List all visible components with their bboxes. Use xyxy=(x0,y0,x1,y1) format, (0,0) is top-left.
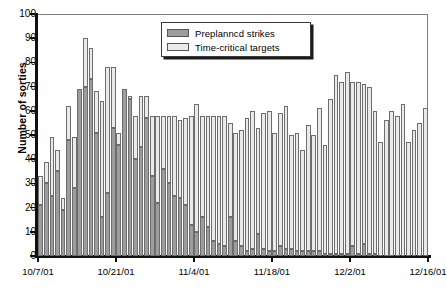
bar-column xyxy=(345,72,350,256)
bar-segment-preplanned-strikes xyxy=(278,246,283,256)
bar-segment-preplanned-strikes xyxy=(183,205,188,256)
bar-segment-time-critical-targets xyxy=(222,116,227,247)
bar-segment-time-critical-targets xyxy=(217,116,222,244)
bar-segment-time-critical-targets xyxy=(38,176,43,205)
x-tick xyxy=(427,256,429,262)
bar-column xyxy=(284,106,289,256)
y-axis: 0102030405060708090100 xyxy=(0,0,36,301)
bar-column xyxy=(44,162,49,256)
bar-segment-preplanned-strikes xyxy=(261,249,266,256)
bar-segment-time-critical-targets xyxy=(228,123,233,217)
bar-segment-preplanned-strikes xyxy=(311,251,316,256)
bar-column xyxy=(267,111,272,256)
bar-segment-time-critical-targets xyxy=(144,96,149,118)
bar-segment-time-critical-targets xyxy=(423,108,428,256)
bar-segment-preplanned-strikes xyxy=(61,210,66,256)
bar-column xyxy=(144,96,149,256)
bar-segment-time-critical-targets xyxy=(261,113,266,249)
bar-segment-preplanned-strikes xyxy=(245,251,250,256)
bar-segment-time-critical-targets xyxy=(317,108,322,251)
bar-segment-time-critical-targets xyxy=(211,116,216,242)
bar-segment-preplanned-strikes xyxy=(300,251,305,256)
bar-column xyxy=(161,116,166,256)
bar-segment-preplanned-strikes xyxy=(50,196,55,257)
bar-segment-time-critical-targets xyxy=(334,75,339,254)
x-tick-label: 10/7/01 xyxy=(22,266,54,277)
legend-item-preplanned-strikes: Preplannсd strikes xyxy=(167,26,305,40)
bar-column xyxy=(211,116,216,256)
bar-column xyxy=(339,82,344,256)
bar-column xyxy=(311,135,316,256)
bar-segment-time-critical-targets xyxy=(256,128,261,234)
bar-segment-time-critical-targets xyxy=(417,123,422,256)
bar-segment-time-critical-targets xyxy=(401,104,406,256)
bar-column xyxy=(122,89,127,256)
bar-segment-preplanned-strikes xyxy=(334,254,339,256)
bar-segment-preplanned-strikes xyxy=(189,225,194,256)
bar-column xyxy=(362,84,367,256)
y-tick-label: 20 xyxy=(8,203,36,213)
bar-column xyxy=(139,96,144,256)
y-tick-label: 40 xyxy=(8,154,36,164)
bar-segment-time-critical-targets xyxy=(295,133,300,252)
bar-segment-time-critical-targets xyxy=(378,142,383,256)
bar-segment-time-critical-targets xyxy=(155,116,160,203)
x-tick-label: 10/21/01 xyxy=(98,266,135,277)
bar-column xyxy=(178,120,183,256)
preplanned-swatch-icon xyxy=(167,29,189,37)
bar-column xyxy=(384,120,389,256)
bar-segment-preplanned-strikes xyxy=(295,251,300,256)
bar-segment-time-critical-targets xyxy=(345,72,350,254)
bar-segment-preplanned-strikes xyxy=(111,128,116,256)
bar-segment-time-critical-targets xyxy=(172,116,177,196)
bar-column xyxy=(239,130,244,256)
bar-segment-time-critical-targets xyxy=(328,99,333,254)
bar-column xyxy=(72,137,77,256)
bar-segment-preplanned-strikes xyxy=(89,79,94,256)
bar-segment-preplanned-strikes xyxy=(217,244,222,256)
bar-segment-preplanned-strikes xyxy=(167,183,172,256)
bar-segment-time-critical-targets xyxy=(278,113,283,246)
bar-column xyxy=(66,106,71,256)
bar-segment-preplanned-strikes xyxy=(350,246,355,256)
bar-segment-time-critical-targets xyxy=(311,135,316,251)
bar-column xyxy=(61,198,66,256)
bar-segment-preplanned-strikes xyxy=(306,251,311,256)
bar-segment-time-critical-targets xyxy=(395,116,400,256)
x-tick xyxy=(115,256,117,262)
bar-segment-time-critical-targets xyxy=(267,111,272,251)
bar-column xyxy=(412,130,417,256)
bar-segment-time-critical-targets xyxy=(83,38,88,86)
bar-column xyxy=(256,128,261,256)
bar-column xyxy=(250,111,255,256)
x-tick-label: 12/16/01 xyxy=(410,266,447,277)
bar-column xyxy=(55,150,60,256)
bar-segment-preplanned-strikes xyxy=(128,99,133,256)
bar-segment-preplanned-strikes xyxy=(206,227,211,256)
bar-segment-time-critical-targets xyxy=(66,106,71,140)
bar-column xyxy=(189,116,194,256)
y-tick-label: 70 xyxy=(8,82,36,92)
bar-column xyxy=(77,89,82,256)
bar-segment-time-critical-targets xyxy=(111,67,116,128)
bar-column xyxy=(150,116,155,256)
bar-segment-preplanned-strikes xyxy=(178,198,183,256)
bar-segment-time-critical-targets xyxy=(356,82,361,254)
bar-segment-time-critical-targets xyxy=(300,150,305,252)
bar-segment-preplanned-strikes xyxy=(150,176,155,256)
bar-segment-preplanned-strikes xyxy=(250,249,255,256)
legend-item-time-critical-targets: Time-critical targets xyxy=(167,40,305,54)
bar-column xyxy=(323,145,328,256)
y-tick-label: 50 xyxy=(8,130,36,140)
bar-column xyxy=(389,111,394,256)
bar-segment-preplanned-strikes xyxy=(194,232,199,256)
bar-column xyxy=(100,101,105,256)
bar-column xyxy=(278,113,283,256)
bar-segment-preplanned-strikes xyxy=(94,133,99,256)
y-tick-label: 60 xyxy=(8,106,36,116)
bar-column xyxy=(83,38,88,256)
bar-column xyxy=(395,116,400,256)
bar-segment-time-critical-targets xyxy=(245,118,250,251)
bar-segment-preplanned-strikes xyxy=(172,196,177,257)
